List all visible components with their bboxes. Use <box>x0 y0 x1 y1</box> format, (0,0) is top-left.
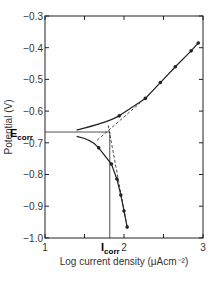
x-tick-label: 3 <box>200 242 206 253</box>
x-tick-label: 2 <box>121 242 127 253</box>
icorr-label: Icorr <box>101 241 120 256</box>
curves <box>45 41 200 238</box>
chart-svg: −0.3 −0.4 −0.5 −0.6 −0.7 −0.8 −0.9 −1.0 … <box>0 0 216 283</box>
y-tick-label: −1.0 <box>23 233 43 244</box>
y-axis <box>45 16 203 238</box>
y-tick-label: −0.9 <box>23 201 43 212</box>
plot-frame <box>45 16 203 238</box>
tafel-plot: −0.3 −0.4 −0.5 −0.6 −0.7 −0.8 −0.9 −1.0 … <box>0 0 216 283</box>
y-tick-label: −0.3 <box>23 11 43 22</box>
y-tick-label: −0.5 <box>23 74 43 85</box>
y-tick-label: −0.8 <box>23 169 43 180</box>
x-axis-label: Log current density (μAcm⁻²) <box>60 256 189 267</box>
x-tick-label: 1 <box>42 242 48 253</box>
y-tick-label: −0.4 <box>23 43 43 54</box>
x-axis <box>45 16 203 238</box>
y-tick-label: −0.6 <box>23 106 43 117</box>
